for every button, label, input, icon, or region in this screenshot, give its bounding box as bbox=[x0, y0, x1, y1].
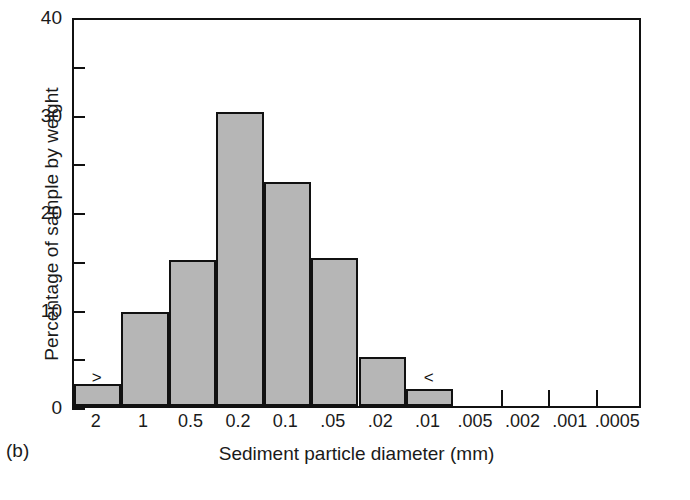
x-tick-label: .005 bbox=[451, 412, 498, 430]
x-tick-label: 1 bbox=[119, 412, 166, 430]
x-tick-label: .02 bbox=[357, 412, 404, 430]
bar bbox=[169, 260, 216, 406]
bar bbox=[216, 112, 263, 406]
plot-area: >< bbox=[72, 18, 641, 408]
x-tick-label: .01 bbox=[404, 412, 451, 430]
x-tick-label: .002 bbox=[499, 412, 546, 430]
y-tick-minor bbox=[72, 164, 85, 166]
x-tick-label: .0005 bbox=[594, 412, 641, 430]
x-tick bbox=[596, 390, 598, 406]
y-tick-label: 0 bbox=[4, 398, 62, 417]
x-tick bbox=[548, 390, 550, 406]
y-axis-title: Percentage of sample by weight bbox=[41, 24, 63, 424]
y-tick-label: 10 bbox=[4, 301, 62, 320]
x-tick-label: 0.1 bbox=[262, 412, 309, 430]
y-tick-major bbox=[72, 311, 85, 313]
x-tick-label: 0.5 bbox=[167, 412, 214, 430]
y-tick-label: 40 bbox=[4, 8, 62, 27]
bar bbox=[264, 182, 311, 406]
panel-label: (b) bbox=[6, 441, 29, 460]
y-tick-major bbox=[72, 408, 85, 410]
bar bbox=[359, 357, 406, 406]
x-tick bbox=[501, 390, 503, 406]
bar bbox=[311, 258, 358, 406]
y-tick-major bbox=[72, 116, 85, 118]
bar-annotation: > bbox=[92, 369, 102, 386]
y-tick-label: 30 bbox=[4, 106, 62, 125]
y-tick-major bbox=[72, 18, 85, 20]
bar-annotation: < bbox=[424, 369, 434, 386]
y-tick-minor bbox=[72, 359, 85, 361]
bar bbox=[406, 389, 453, 406]
y-tick-label: 20 bbox=[4, 203, 62, 222]
x-tick-label: 0.2 bbox=[214, 412, 261, 430]
x-axis-title: Sediment particle diameter (mm) bbox=[72, 443, 641, 465]
y-tick-minor bbox=[72, 262, 85, 264]
x-tick-label: .05 bbox=[309, 412, 356, 430]
figure-panel: Percentage of sample by weight >< 210.50… bbox=[0, 0, 690, 500]
y-tick-minor bbox=[72, 67, 85, 69]
x-tick-label: .001 bbox=[546, 412, 593, 430]
bar bbox=[121, 312, 168, 406]
y-tick-major bbox=[72, 213, 85, 215]
x-tick-label: 2 bbox=[72, 412, 119, 430]
bar-series bbox=[74, 20, 639, 406]
